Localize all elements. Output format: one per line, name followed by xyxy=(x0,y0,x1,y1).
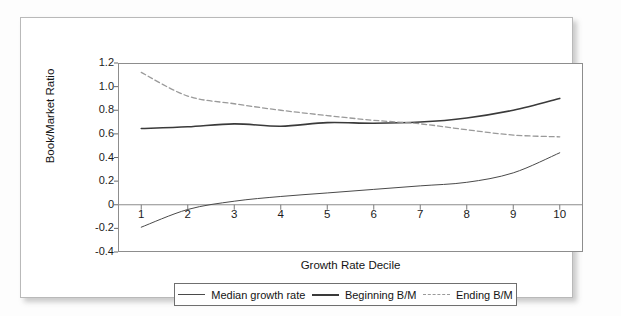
legend-item-label: Median growth rate xyxy=(211,289,305,301)
y-tick-label: 0.2 xyxy=(80,175,114,186)
x-tick-label: 9 xyxy=(500,208,526,220)
x-tick-label: 7 xyxy=(407,208,433,220)
y-axis-title: Book/Market Ratio xyxy=(44,51,56,181)
chart-plot xyxy=(118,63,583,252)
figure-container: 1.21.00.80.60.40.20-0.2-0.4 Book/Market … xyxy=(20,17,573,298)
x-tick-label: 8 xyxy=(454,208,480,220)
legend-item-label: Ending B/M xyxy=(456,289,513,301)
y-tick-label: 0.8 xyxy=(80,104,114,115)
x-tick-label: 6 xyxy=(361,208,387,220)
x-tick-label: 3 xyxy=(221,208,247,220)
y-tick-label: -0.2 xyxy=(80,222,114,233)
series-line xyxy=(141,153,560,227)
series-line xyxy=(141,98,560,128)
y-tick-label: 0.4 xyxy=(80,152,114,163)
legend-item-label: Beginning B/M xyxy=(345,289,417,301)
x-axis-title: Growth Rate Decile xyxy=(118,259,583,271)
x-tick-label: 4 xyxy=(268,208,294,220)
legend-swatch-icon xyxy=(423,294,450,295)
y-tick-label: 0 xyxy=(80,199,114,210)
series-line xyxy=(141,72,560,136)
y-tick-label: -0.4 xyxy=(80,246,114,257)
legend-item: Median growth rate xyxy=(178,289,305,301)
legend-item: Beginning B/M xyxy=(312,289,417,301)
x-tick-label: 10 xyxy=(547,208,573,220)
legend-item: Ending B/M xyxy=(423,289,513,301)
y-tick-label: 0.6 xyxy=(80,128,114,139)
legend-swatch-icon xyxy=(312,294,339,296)
x-axis-ticks: 12345678910 xyxy=(118,18,583,19)
x-tick-label: 5 xyxy=(314,208,340,220)
chart-legend: Median growth rateBeginning B/MEnding B/… xyxy=(174,283,517,306)
legend-swatch-icon xyxy=(178,294,205,295)
y-tick-label: 1.0 xyxy=(80,81,114,92)
x-tick-label: 1 xyxy=(128,208,154,220)
y-tick-label: 1.2 xyxy=(80,57,114,68)
y-axis-ticks: 1.21.00.80.60.40.20-0.2-0.4 xyxy=(76,18,114,316)
x-tick-label: 2 xyxy=(175,208,201,220)
